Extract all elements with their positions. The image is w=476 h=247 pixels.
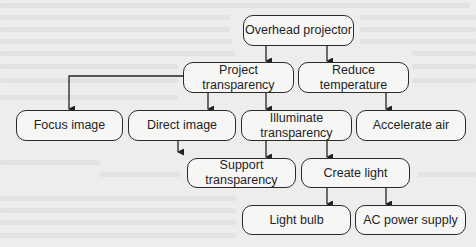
node-label: Create light — [324, 166, 388, 181]
node-light-bulb: Light bulb — [242, 205, 351, 235]
node-project-transparency: Project transparency — [183, 62, 294, 93]
node-focus-image: Focus image — [16, 110, 123, 141]
node-label: Overhead projector — [245, 23, 352, 38]
node-label: Illuminate transparency — [255, 111, 339, 141]
node-label: Support transparency — [200, 158, 284, 188]
node-overhead-projector: Overhead projector — [243, 15, 354, 46]
node-label: Reduce temperature — [312, 63, 396, 93]
node-label: Light bulb — [269, 213, 323, 228]
node-reduce-temperature: Reduce temperature — [298, 62, 409, 93]
node-label: Accelerate air — [373, 118, 449, 133]
node-support-transparency: Support transparency — [187, 158, 296, 188]
node-label: Focus image — [34, 118, 106, 133]
edge-project-to-focus — [69, 76, 183, 109]
node-illuminate-transparency: Illuminate transparency — [241, 110, 352, 141]
node-direct-image: Direct image — [128, 110, 236, 141]
node-create-light: Create light — [301, 158, 410, 188]
node-ac-power-supply: AC power supply — [355, 205, 466, 235]
node-accelerate-air: Accelerate air — [356, 110, 466, 141]
node-label: AC power supply — [363, 213, 458, 228]
node-label: Project transparency — [199, 63, 279, 93]
node-label: Direct image — [147, 118, 217, 133]
